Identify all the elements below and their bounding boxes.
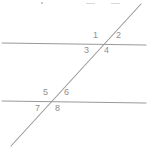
geometry-canvas (0, 0, 149, 148)
angle-label-3: 3 (84, 46, 89, 55)
angle-label-1: 1 (93, 31, 98, 40)
angle-label-2: 2 (116, 31, 121, 40)
transversal-line (11, 4, 141, 146)
artifact-dash-2 (111, 3, 120, 4)
angle-label-6: 6 (64, 88, 69, 97)
artifact-dot (41, 2, 43, 4)
angle-label-8: 8 (55, 104, 60, 113)
angle-label-4: 4 (104, 46, 109, 55)
angle-label-7: 7 (35, 104, 40, 113)
artifact-dash-1 (86, 3, 95, 4)
geometry-figure: 12345678 (0, 0, 149, 148)
angle-label-5: 5 (43, 88, 48, 97)
upper-parallel-line (2, 43, 146, 45)
lower-parallel-line (2, 101, 146, 103)
